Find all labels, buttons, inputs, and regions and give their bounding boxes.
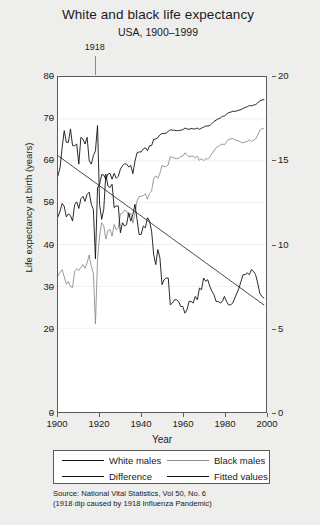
chart-legend: White males Black males Difference Fitte… xyxy=(53,450,270,484)
x-axis-label: Year xyxy=(57,434,267,445)
annotation-1918-tick xyxy=(95,56,96,75)
y-tick-label-right: 0 xyxy=(278,407,300,418)
y-tick-mark-left xyxy=(50,413,54,414)
plot-area xyxy=(57,76,267,413)
y-axis-label: Life expectancy at birth (years) xyxy=(23,88,34,328)
y-tick-mark-right xyxy=(272,160,276,161)
x-tick-mark xyxy=(99,413,100,417)
chart-canvas xyxy=(58,77,266,412)
legend-item-difference[interactable]: Difference xyxy=(62,471,152,482)
y-tick-mark-right xyxy=(272,413,276,414)
legend-label-difference: Difference xyxy=(109,471,152,482)
legend-label-white-males: White males xyxy=(109,455,161,466)
y-tick-mark-left xyxy=(50,76,54,77)
legend-item-fitted-values[interactable]: Fitted values xyxy=(167,471,268,482)
x-tick-label: 1900 xyxy=(37,418,77,429)
legend-item-white-males[interactable]: White males xyxy=(62,455,161,466)
y-tick-mark-left xyxy=(50,329,54,330)
annotation-1918-label: 1918 xyxy=(71,42,119,52)
y-tick-mark-left xyxy=(50,202,54,203)
x-tick-mark xyxy=(183,413,184,417)
y-tick-label-right: 20 xyxy=(278,70,300,81)
x-tick-mark xyxy=(267,413,268,417)
x-tick-label: 2000 xyxy=(247,418,287,429)
legend-swatch-white-males xyxy=(62,460,104,461)
legend-swatch-black-males xyxy=(167,460,209,461)
legend-row-2: Difference Fitted values xyxy=(54,467,269,484)
legend-row-1: White males Black males xyxy=(54,451,269,468)
y-axis-left: 020304050607080 xyxy=(30,0,54,525)
source-note: Source: National Vital Statistics, Vol 5… xyxy=(53,489,212,508)
legend-label-black-males: Black males xyxy=(214,455,265,466)
x-tick-label: 1980 xyxy=(205,418,245,429)
y-tick-mark-left xyxy=(50,118,54,119)
y-tick-mark-right xyxy=(272,76,276,77)
y-tick-mark-left xyxy=(50,245,54,246)
y-tick-mark-left xyxy=(50,287,54,288)
legend-item-black-males[interactable]: Black males xyxy=(167,455,265,466)
x-tick-mark xyxy=(57,413,58,417)
x-tick-label: 1960 xyxy=(163,418,203,429)
x-tick-mark xyxy=(225,413,226,417)
x-tick-label: 1920 xyxy=(79,418,119,429)
y-axis-right: 05101520 xyxy=(272,0,296,525)
x-tick-mark xyxy=(141,413,142,417)
legend-label-fitted-values: Fitted values xyxy=(214,471,268,482)
y-tick-mark-left xyxy=(50,160,54,161)
y-tick-mark-right xyxy=(272,245,276,246)
legend-swatch-fitted-values xyxy=(167,476,209,477)
y-tick-label-right: 10 xyxy=(278,239,300,250)
x-tick-label: 1940 xyxy=(121,418,161,429)
y-tick-label-right: 5 xyxy=(278,323,300,334)
legend-swatch-difference xyxy=(62,476,104,477)
y-tick-label-right: 15 xyxy=(278,154,300,165)
y-tick-mark-right xyxy=(272,329,276,330)
